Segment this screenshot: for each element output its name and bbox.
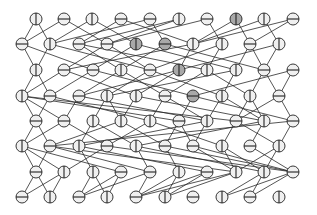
node <box>144 13 156 25</box>
node <box>101 140 113 152</box>
node <box>187 140 199 152</box>
node <box>144 115 156 127</box>
node <box>58 115 70 127</box>
node <box>58 13 70 25</box>
node <box>258 64 270 76</box>
node <box>258 166 270 178</box>
node <box>87 115 99 127</box>
node <box>144 64 156 76</box>
node <box>115 115 127 127</box>
node <box>216 90 228 102</box>
node <box>30 166 42 178</box>
node <box>159 38 171 50</box>
node <box>87 64 99 76</box>
node <box>287 13 299 25</box>
node <box>115 13 127 25</box>
node <box>201 64 213 76</box>
node <box>187 90 199 102</box>
node <box>273 191 285 203</box>
node <box>230 13 242 25</box>
node <box>258 13 270 25</box>
node <box>201 13 213 25</box>
node <box>30 13 42 25</box>
node <box>44 191 56 203</box>
node <box>287 115 299 127</box>
node <box>58 166 70 178</box>
node <box>130 90 142 102</box>
node <box>159 90 171 102</box>
node <box>273 90 285 102</box>
node <box>187 191 199 203</box>
node <box>130 140 142 152</box>
node <box>201 166 213 178</box>
edge <box>79 70 121 96</box>
edge <box>50 70 93 96</box>
edge <box>250 19 293 44</box>
node <box>16 140 28 152</box>
node <box>244 90 256 102</box>
node <box>173 64 185 76</box>
node <box>130 191 142 203</box>
node <box>230 115 242 127</box>
node <box>230 166 242 178</box>
node <box>173 115 185 127</box>
node <box>87 166 99 178</box>
node <box>73 191 85 203</box>
node <box>58 64 70 76</box>
node <box>144 166 156 178</box>
node <box>86 13 98 25</box>
node <box>73 90 85 102</box>
edge <box>22 121 64 146</box>
node <box>216 191 228 203</box>
node <box>244 38 256 50</box>
node <box>258 115 270 127</box>
node <box>187 38 199 50</box>
node <box>201 115 213 127</box>
node <box>16 90 28 102</box>
node <box>101 191 113 203</box>
node <box>230 64 242 76</box>
node <box>244 191 256 203</box>
node <box>159 191 171 203</box>
node <box>130 38 142 50</box>
node <box>115 166 127 178</box>
node <box>173 13 185 25</box>
node <box>16 191 28 203</box>
node <box>287 166 299 178</box>
node <box>73 140 85 152</box>
edge <box>22 19 64 44</box>
node <box>287 64 299 76</box>
node <box>101 38 113 50</box>
edge <box>22 172 64 197</box>
node <box>101 90 113 102</box>
node <box>273 140 285 152</box>
node <box>173 166 185 178</box>
node <box>44 90 56 102</box>
node <box>44 140 56 152</box>
node <box>44 38 56 50</box>
node <box>244 140 256 152</box>
network-diagram <box>0 0 317 215</box>
node <box>216 140 228 152</box>
node <box>30 115 42 127</box>
node <box>16 38 28 50</box>
node <box>159 140 171 152</box>
edge <box>22 70 64 96</box>
node <box>73 38 85 50</box>
node <box>115 64 127 76</box>
node <box>273 38 285 50</box>
node <box>30 64 42 76</box>
node <box>216 38 228 50</box>
